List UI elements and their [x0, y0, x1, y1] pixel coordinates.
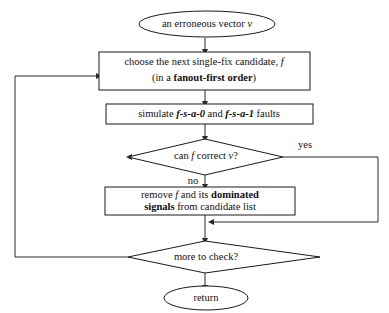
remove-candidate-label-line2: signals from candidate list — [144, 201, 256, 212]
simulate-faults-label: simulate f-s-a-0 and f-s-a-1 faults — [138, 108, 280, 119]
choose-candidate-label-line2: (in a fanout-first order) — [152, 72, 257, 84]
flowchart-canvas: an erroneous vector v choose the next si… — [0, 0, 389, 313]
edge-label-yes: yes — [298, 139, 312, 150]
remove-candidate-label-line1: remove f and its dominated — [141, 189, 259, 200]
can-correct-decision-label: can f correct v? — [174, 150, 238, 161]
more-to-check-decision-label: more to check? — [174, 251, 238, 262]
flowchart-diagram: an erroneous vector v choose the next si… — [0, 0, 389, 313]
choose-candidate-label-line1: choose the next single-fix candidate, f — [124, 56, 285, 67]
start-terminal-label: an erroneous vector v — [162, 18, 252, 29]
end-terminal-label: return — [193, 292, 219, 303]
edge-label-no: no — [188, 175, 199, 186]
edge-more-check-loop-to-choose — [15, 76, 128, 257]
